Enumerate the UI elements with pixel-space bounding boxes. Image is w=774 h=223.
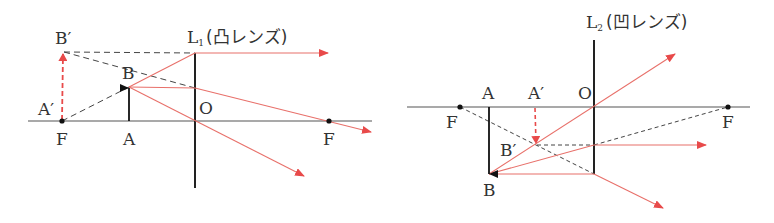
lens-type-convex: (凸レンズ) bbox=[206, 27, 287, 47]
label-o: O bbox=[578, 83, 592, 103]
concave-lens-diagram: A A′ O F F B′ B L2 (凹レンズ) bbox=[407, 12, 750, 208]
label-b-prime: B′ bbox=[500, 140, 516, 160]
label-a: A bbox=[481, 83, 495, 103]
label-f-right: F bbox=[722, 112, 734, 132]
label-f-right: F bbox=[323, 129, 335, 149]
label-f-left: F bbox=[56, 129, 68, 149]
virtual-image-arrow bbox=[535, 108, 536, 143]
focal-point-right bbox=[326, 118, 331, 123]
label-b-prime: B′ bbox=[55, 28, 71, 48]
label-a-prime: A′ bbox=[527, 83, 544, 103]
label-b: B bbox=[483, 180, 496, 200]
focal-point-left bbox=[457, 104, 462, 109]
label-a-prime: A′ bbox=[37, 99, 54, 119]
lens-type-concave: (凹レンズ) bbox=[606, 12, 687, 32]
label-f-left: F bbox=[446, 112, 458, 132]
refracted-rays bbox=[489, 54, 706, 208]
focal-point-left bbox=[59, 118, 64, 123]
focal-point-right bbox=[725, 104, 730, 109]
virtual-image-arrow bbox=[62, 54, 63, 120]
label-b: B bbox=[122, 63, 135, 83]
refracted-rays bbox=[129, 53, 371, 176]
convex-lens-diagram: B′ A′ B O F A F L1 (凸レンズ) bbox=[28, 27, 372, 188]
lens-label-l2: L2 bbox=[586, 12, 603, 33]
lens-label-l1: L1 bbox=[187, 27, 204, 48]
label-a: A bbox=[122, 129, 136, 149]
lens-diagrams: B′ A′ B O F A F L1 (凸レンズ) A A′ bbox=[0, 0, 774, 223]
label-o: O bbox=[199, 98, 213, 118]
